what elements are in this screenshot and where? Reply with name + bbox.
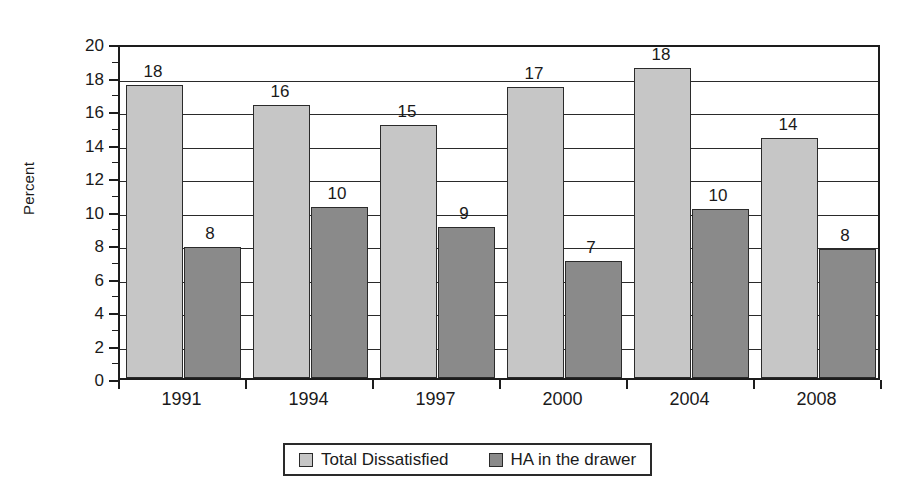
legend-label-total-dissatisfied: Total Dissatisfied: [321, 450, 449, 470]
x-axis-tick-label: 1991: [161, 389, 201, 410]
bar: [692, 209, 749, 378]
bar-value-label: 10: [328, 184, 347, 204]
plot-area: [118, 45, 880, 380]
legend-swatch-total-dissatisfied: [299, 453, 313, 467]
x-axis-tick: [499, 380, 501, 389]
y-axis-tick-label: 6: [60, 271, 104, 288]
bar-value-label: 16: [270, 82, 289, 102]
legend-item-ha-in-the-drawer[interactable]: HA in the drawer: [489, 450, 637, 470]
bar: [565, 261, 622, 378]
bar-value-label: 7: [586, 238, 595, 258]
x-axis-tick: [118, 380, 120, 389]
bar-value-label: 10: [709, 186, 728, 206]
y-axis-tick: [109, 45, 118, 47]
y-axis-tick: [109, 280, 118, 282]
bar: [311, 207, 368, 378]
x-axis-tick: [626, 380, 628, 389]
bar-value-label: 15: [397, 102, 416, 122]
y-axis-tick: [109, 347, 118, 349]
x-axis-tick: [753, 380, 755, 389]
x-axis-tick-label: 2000: [542, 389, 582, 410]
legend-label-ha-in-the-drawer: HA in the drawer: [511, 450, 637, 470]
y-axis-tick: [109, 246, 118, 248]
bar: [438, 227, 495, 378]
y-axis-tick: [109, 79, 118, 81]
bar: [380, 125, 437, 378]
legend: Total Dissatisfied HA in the drawer: [283, 443, 652, 476]
bar: [184, 247, 241, 378]
bar: [634, 68, 691, 378]
y-axis-tick: [109, 112, 118, 114]
bar-value-label: 17: [524, 64, 543, 84]
bar-value-label: 18: [143, 62, 162, 82]
y-axis-tick-label: 20: [60, 37, 104, 54]
bar: [253, 105, 310, 378]
y-axis-tick-label: 12: [60, 171, 104, 188]
x-axis-tick: [372, 380, 374, 389]
y-axis-tick: [109, 313, 118, 315]
bar-value-label: 8: [840, 226, 849, 246]
x-axis-tick-label: 1994: [288, 389, 328, 410]
bar-value-label: 9: [459, 204, 468, 224]
bar-value-label: 8: [205, 224, 214, 244]
bar-chart: Percent 02468101214161820 19911994199720…: [0, 0, 910, 493]
gridline: [120, 114, 878, 115]
x-axis-tick-label: 2008: [796, 389, 836, 410]
y-axis-tick: [109, 213, 118, 215]
legend-swatch-ha-in-the-drawer: [489, 453, 503, 467]
bar-value-label: 14: [778, 115, 797, 135]
y-axis-tick: [109, 380, 118, 382]
bar-value-label: 18: [651, 45, 670, 65]
x-axis-tick-label: 2004: [669, 389, 709, 410]
x-axis-tick: [880, 380, 882, 389]
y-axis-tick-label: 4: [60, 305, 104, 322]
y-axis-tick-label: 16: [60, 104, 104, 121]
bar: [819, 249, 876, 378]
y-axis-tick: [109, 146, 118, 148]
bar: [126, 85, 183, 378]
y-axis-tick-label: 10: [60, 204, 104, 221]
gridline: [120, 81, 878, 82]
y-axis-tick-label: 8: [60, 238, 104, 255]
y-axis-tick-label: 2: [60, 338, 104, 355]
y-axis-tick: [109, 179, 118, 181]
bar: [507, 87, 564, 378]
y-axis-tick-label: 14: [60, 137, 104, 154]
legend-item-total-dissatisfied[interactable]: Total Dissatisfied: [299, 450, 449, 470]
bar: [761, 138, 818, 378]
x-axis-tick-label: 1997: [415, 389, 455, 410]
y-axis-title: Percent: [20, 129, 37, 249]
x-axis-tick: [245, 380, 247, 389]
y-axis-tick-label: 18: [60, 70, 104, 87]
y-axis-tick-label: 0: [60, 372, 104, 389]
